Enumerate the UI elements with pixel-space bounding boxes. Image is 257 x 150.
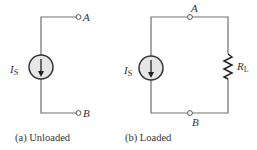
- terminal-b-icon: [76, 111, 81, 116]
- current-source-icon: [139, 56, 163, 80]
- panel-b-loaded: IS RL A B (b) Loaded: [123, 2, 249, 144]
- current-source-icon: [29, 55, 53, 79]
- load-label: RL: [236, 60, 249, 74]
- top-wire-left-b: [151, 17, 188, 56]
- circuit-figure: IS A B (a) Unloaded IS RL A B (b) Loaded: [0, 0, 257, 150]
- top-wire-a: [41, 17, 76, 55]
- bottom-wire-right-b: [192, 79, 228, 113]
- terminal-a-label: A: [190, 2, 198, 14]
- terminal-a-icon: [188, 15, 193, 20]
- terminal-a-icon: [76, 15, 81, 20]
- caption-a: (a) Unloaded: [15, 132, 71, 144]
- bottom-wire-a: [41, 79, 76, 113]
- source-label-b: IS: [123, 64, 132, 78]
- panel-a-unloaded: IS A B (a) Unloaded: [9, 11, 90, 144]
- source-label-a: IS: [9, 63, 18, 77]
- bottom-wire-left-b: [151, 80, 188, 113]
- terminal-b-label: B: [83, 107, 90, 119]
- terminal-a-label: A: [82, 11, 90, 23]
- resistor-icon: [224, 54, 232, 79]
- caption-b: (b) Loaded: [125, 132, 172, 144]
- terminal-b-label: B: [192, 116, 199, 128]
- terminal-b-icon: [188, 111, 193, 116]
- top-wire-right-b: [192, 17, 228, 54]
